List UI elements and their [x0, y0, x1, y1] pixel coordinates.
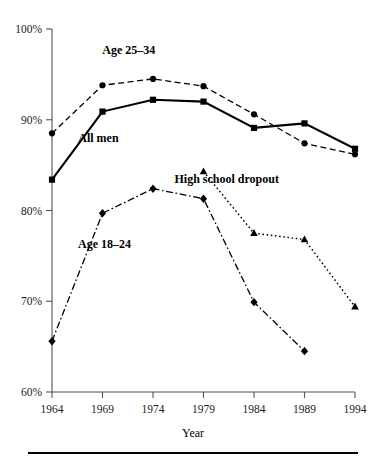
chart-figure: 60%70%80%90%100% 19641969197419791984198…: [0, 0, 386, 470]
data-point-marker: [49, 130, 55, 136]
data-point-marker: [352, 151, 358, 157]
chart-series: [48, 76, 358, 356]
x-tick-label: 1974: [142, 403, 165, 415]
series-label-high-school-dropout: High school dropout: [174, 172, 278, 186]
series-line: [52, 189, 305, 351]
y-tick-label: 90%: [21, 114, 43, 126]
y-axis-tick-labels: 60%70%80%90%100%: [15, 23, 42, 398]
data-point-marker: [200, 195, 207, 203]
series-age-18-24: [48, 185, 308, 356]
line-chart: 60%70%80%90%100% 19641969197419791984198…: [0, 0, 386, 470]
series-label-all-men: All men: [78, 131, 119, 145]
y-tick-label: 100%: [15, 23, 42, 35]
data-point-marker: [251, 111, 257, 117]
series-high-school-dropout: [200, 167, 359, 309]
series-label-age-18-24: Age 18–24: [78, 237, 131, 251]
footer-rule: [28, 452, 358, 454]
data-point-marker: [200, 83, 206, 89]
data-point-marker: [150, 76, 156, 82]
x-tick-label: 1994: [344, 403, 367, 415]
y-tick-label: 80%: [21, 205, 43, 217]
y-tick-label: 60%: [21, 386, 43, 398]
y-tick-label: 70%: [21, 295, 43, 307]
data-point-marker: [99, 209, 106, 217]
data-point-marker: [150, 97, 156, 103]
series-line: [204, 171, 356, 306]
data-point-marker: [251, 125, 257, 131]
x-axis-tick-labels: 1964196919741979198419891994: [41, 403, 367, 415]
x-tick-label: 1964: [41, 403, 64, 415]
data-point-marker: [149, 185, 156, 193]
data-point-marker: [48, 337, 55, 345]
data-point-marker: [200, 99, 206, 105]
data-point-marker: [301, 140, 307, 146]
data-point-marker: [49, 177, 55, 183]
series-age-25-34: [49, 76, 358, 158]
x-axis-title: Year: [182, 426, 204, 440]
chart-axes: [46, 29, 355, 398]
x-tick-label: 1969: [91, 403, 114, 415]
data-point-marker: [301, 235, 309, 242]
x-tick-label: 1984: [243, 403, 266, 415]
series-label-age-25-34: Age 25–34: [102, 43, 155, 57]
series-annotations: Age 25–34All menHigh school dropoutAge 1…: [78, 43, 279, 251]
data-point-marker: [352, 146, 358, 152]
data-point-marker: [99, 108, 105, 114]
data-point-marker: [301, 347, 308, 355]
x-tick-label: 1989: [293, 403, 316, 415]
x-tick-label: 1979: [192, 403, 215, 415]
data-point-marker: [99, 82, 105, 88]
data-point-marker: [301, 120, 307, 126]
